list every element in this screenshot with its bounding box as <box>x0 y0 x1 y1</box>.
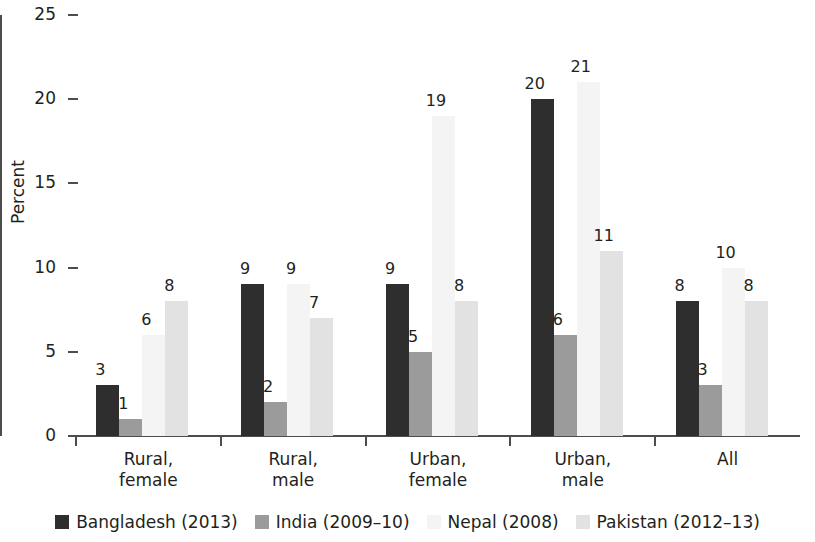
x-axis-tick <box>75 437 77 446</box>
legend-item[interactable]: India (2009–10) <box>255 512 410 532</box>
legend-label: Bangladesh (2013) <box>76 512 238 532</box>
x-axis-category-label-line: Rural, <box>73 449 223 470</box>
legend-label: Nepal (2008) <box>448 512 559 532</box>
bar <box>455 301 478 436</box>
x-axis-category-label: Urban,female <box>363 449 513 492</box>
bar <box>119 419 142 436</box>
legend-label: Pakistan (2012–13) <box>597 512 760 532</box>
bar-value-label: 8 <box>660 278 700 294</box>
bar <box>531 99 554 436</box>
bar-value-label: 7 <box>294 295 334 311</box>
bar-value-label: 2 <box>248 379 288 395</box>
bar-value-label: 19 <box>416 93 456 109</box>
x-axis-category-label-line: All <box>653 449 803 470</box>
x-axis-tick <box>220 437 222 446</box>
x-axis-category-label: Rural,female <box>73 449 223 492</box>
x-axis-tick <box>509 437 511 446</box>
bar-value-label: 8 <box>149 278 189 294</box>
x-axis-category-label: Rural,male <box>218 449 368 492</box>
x-axis-category-label-line: female <box>363 470 513 491</box>
bar-value-label: 6 <box>538 312 578 328</box>
x-axis-category-label: Urban,male <box>508 449 658 492</box>
bar-value-label: 10 <box>706 245 746 261</box>
y-axis-line <box>0 15 2 436</box>
bar <box>264 402 287 436</box>
legend-swatch-icon <box>427 515 441 529</box>
bar-value-label: 5 <box>393 329 433 345</box>
y-axis-tick-label: 20 <box>16 90 56 107</box>
bar-value-label: 6 <box>126 312 166 328</box>
bar-value-label: 9 <box>271 261 311 277</box>
bar <box>386 284 409 436</box>
legend-swatch-icon <box>576 515 590 529</box>
legend-swatch-icon <box>55 515 69 529</box>
bar-value-label: 9 <box>225 261 265 277</box>
bar-chart: Percent 0510152025 316892979519820621118… <box>0 0 815 542</box>
bar <box>600 251 623 436</box>
y-axis-tick-label: 10 <box>16 259 56 276</box>
bar <box>577 82 600 436</box>
x-axis-category-label-line: Urban, <box>508 449 658 470</box>
y-axis-tick-label: 15 <box>16 174 56 191</box>
bar <box>409 352 432 436</box>
x-axis-category-label-line: female <box>73 470 223 491</box>
x-axis-tick <box>365 437 367 446</box>
legend-item[interactable]: Bangladesh (2013) <box>55 512 238 532</box>
x-axis-category-label-line: male <box>218 470 368 491</box>
y-axis-tick-label: 25 <box>16 6 56 23</box>
bar-value-label: 8 <box>729 278 769 294</box>
bar-value-label: 9 <box>370 261 410 277</box>
x-axis-category-label: All <box>653 449 803 470</box>
bar-value-label: 3 <box>683 362 723 378</box>
y-axis-tick-label: 5 <box>16 343 56 360</box>
bar <box>745 301 768 436</box>
bar-value-label: 3 <box>80 362 120 378</box>
bar <box>554 335 577 436</box>
bar-value-label: 8 <box>439 278 479 294</box>
x-axis-tick <box>654 437 656 446</box>
bar-value-label: 1 <box>103 396 143 412</box>
legend-item[interactable]: Nepal (2008) <box>427 512 559 532</box>
bar-value-label: 21 <box>561 59 601 75</box>
y-axis-tick-label: 0 <box>16 427 56 444</box>
chart-legend: Bangladesh (2013)India (2009–10)Nepal (2… <box>0 512 815 532</box>
x-axis-category-label-line: Rural, <box>218 449 368 470</box>
bar <box>241 284 264 436</box>
y-axis-title: Percent <box>8 142 28 242</box>
bar <box>699 385 722 436</box>
x-axis-category-label-line: Urban, <box>363 449 513 470</box>
legend-swatch-icon <box>255 515 269 529</box>
legend-label: India (2009–10) <box>276 512 410 532</box>
bar-value-label: 11 <box>584 228 624 244</box>
x-axis-category-label-line: male <box>508 470 658 491</box>
plot-bars-area: 3168929795198206211183108 <box>76 15 800 436</box>
bar <box>165 301 188 436</box>
bar <box>142 335 165 436</box>
bar <box>310 318 333 436</box>
legend-item[interactable]: Pakistan (2012–13) <box>576 512 760 532</box>
bar-value-label: 20 <box>515 76 555 92</box>
bar <box>432 116 455 436</box>
